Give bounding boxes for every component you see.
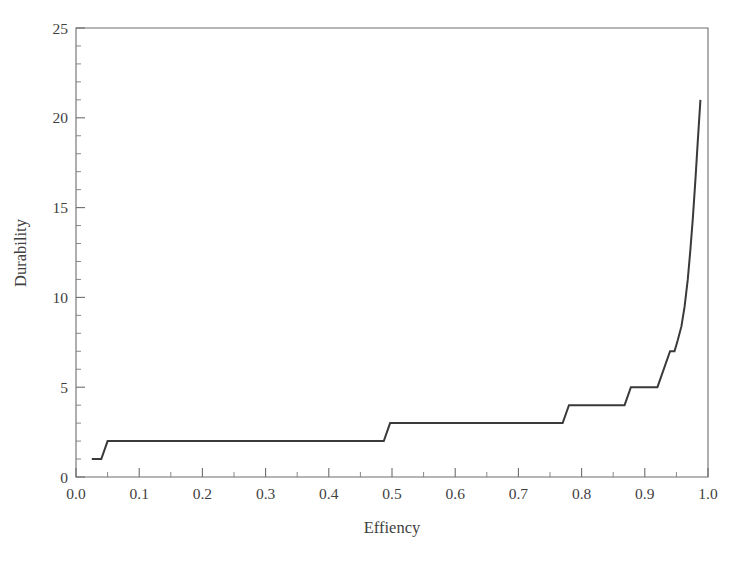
y-tick-label: 10 [53,289,69,306]
x-tick-label: 0.4 [319,485,339,502]
x-tick-label: 0.7 [509,485,529,502]
figure-background [0,0,746,564]
y-tick-label: 15 [53,199,69,216]
x-tick-label: 0.8 [572,485,592,502]
y-tick-label: 5 [60,379,68,396]
y-axis-title: Durability [11,218,30,287]
x-axis-title: Effiency [364,518,421,537]
y-tick-label: 25 [53,20,69,37]
chart-figure: 0.00.10.20.30.40.50.60.70.80.91.0 051015… [0,0,746,564]
x-tick-label: 0.3 [256,485,276,502]
chart-plot-svg: 0.00.10.20.30.40.50.60.70.80.91.0 051015… [0,0,746,564]
y-tick-label: 20 [53,109,69,126]
x-tick-label: 1.0 [698,485,718,502]
x-tick-label: 0.0 [66,485,86,502]
x-tick-label: 0.9 [635,485,655,502]
y-tick-label: 0 [60,469,68,486]
x-tick-label: 0.2 [193,485,212,502]
x-tick-label: 0.6 [446,485,466,502]
x-tick-label: 0.5 [382,485,402,502]
x-tick-label: 0.1 [130,485,149,502]
